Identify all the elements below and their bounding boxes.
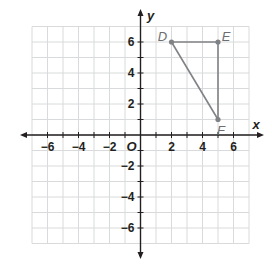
y-tick-label: 2 [128, 97, 135, 111]
y-tick-label: 6 [128, 35, 135, 49]
point-E [215, 39, 220, 44]
x-tick-label: 6 [230, 140, 237, 154]
arrow-right-icon [257, 132, 264, 138]
x-tick-label: −6 [41, 140, 55, 154]
arrow-left-icon [20, 132, 27, 138]
x-tick-label: −4 [72, 140, 86, 154]
x-axis-label: x [251, 117, 260, 132]
arrow-up-icon [138, 9, 144, 16]
y-tick-label: −4 [121, 190, 135, 204]
point-label-F: F [217, 123, 226, 138]
y-tick-label: 4 [128, 66, 135, 80]
arrow-down-icon [138, 252, 144, 259]
origin-label: O [126, 139, 136, 154]
x-tick-label: 2 [168, 140, 175, 154]
triangle-side-FD [172, 42, 219, 120]
point-label-E: E [222, 29, 231, 44]
point-D [169, 39, 174, 44]
coordinate-plane: −6−4−2246642−2−4−6OxyDEF [0, 0, 272, 266]
y-tick-label: −6 [121, 221, 135, 235]
y-tick-label: −2 [121, 159, 135, 173]
x-tick-label: 4 [199, 140, 206, 154]
point-F [215, 117, 220, 122]
y-axis-label: y [146, 8, 155, 23]
x-tick-label: −2 [103, 140, 117, 154]
point-label-D: D [158, 29, 167, 44]
